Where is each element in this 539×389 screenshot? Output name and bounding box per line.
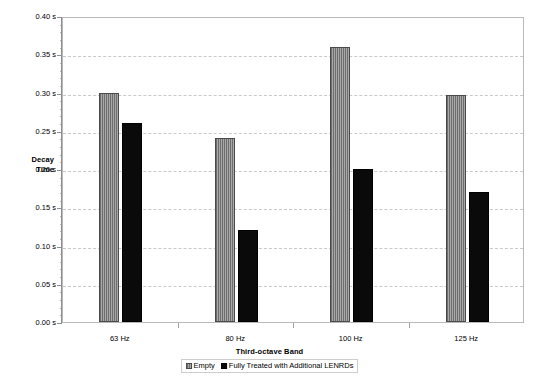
bar [238, 230, 258, 322]
x-axis-tick-label: 63 Hz [80, 334, 160, 343]
bar [330, 47, 350, 322]
bar [122, 123, 142, 322]
y-axis-title-line-1: Decay [4, 155, 54, 165]
x-axis-tick [178, 323, 179, 328]
y-axis-tick-label: 0.30 s [16, 90, 56, 98]
legend-item: Empty [186, 361, 215, 370]
legend-label: Empty [194, 361, 215, 370]
gridline [63, 56, 523, 57]
chart-legend: EmptyFully Treated with Additional LENRD… [181, 359, 359, 373]
y-axis-tick-label: 0.00 s [16, 319, 56, 327]
legend-swatch-icon [221, 363, 227, 369]
bar [99, 93, 119, 323]
y-axis-tick-label: 0.20 s [16, 166, 56, 174]
bar [353, 169, 373, 322]
legend-swatch-icon [186, 363, 192, 369]
x-axis-tick [409, 323, 410, 328]
x-axis-tick-label: 100 Hz [311, 334, 391, 343]
bar [215, 138, 235, 322]
y-axis-tick-label: 0.35 s [16, 51, 56, 59]
plot-area [62, 17, 524, 323]
y-axis-tick-label: 0.10 s [16, 243, 56, 251]
x-axis-tick-label: 80 Hz [195, 334, 275, 343]
legend-label: Fully Treated with Additional LENRDs [229, 361, 354, 370]
x-axis-tick [293, 323, 294, 328]
y-axis-tick-label: 0.15 s [16, 204, 56, 212]
bar-chart-figure: Decay Time 0.00 s0.05 s0.10 s0.15 s0.20 … [0, 0, 539, 389]
x-axis-title: Third-octave Band [0, 347, 539, 356]
x-axis-tick-label: 125 Hz [426, 334, 506, 343]
y-axis-tick-label: 0.05 s [16, 281, 56, 289]
bar [446, 95, 466, 322]
y-axis-tick-label: 0.40 s [16, 13, 56, 21]
y-axis-tick-label: 0.25 s [16, 128, 56, 136]
legend-item: Fully Treated with Additional LENRDs [221, 361, 354, 370]
bar [469, 192, 489, 322]
